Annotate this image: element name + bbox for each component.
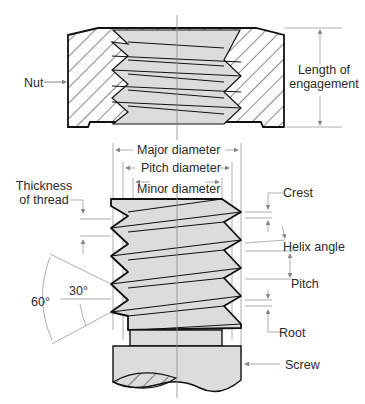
label-pitch-diameter: Pitch diameter [141,161,221,175]
screw-thread [111,185,241,398]
label-major-diameter: Major diameter [137,143,220,157]
label-pitch: Pitch [291,277,319,291]
label-screw: Screw [285,358,320,372]
label-helix-angle: Helix angle [283,240,345,254]
label-angle-30: 30° [69,284,88,298]
label-thickness-2: of thread [14,193,74,207]
label-root: Root [279,326,305,340]
label-thickness-1: Thickness [14,179,74,193]
label-nut: Nut [24,76,43,90]
label-minor-diameter: Minor diameter [137,182,220,196]
nut-section [68,15,284,140]
label-crest: Crest [283,186,313,200]
label-length-of-engagement-2: engagement [286,77,362,91]
label-angle-60: 60° [31,295,50,309]
label-length-of-engagement-1: Length of [286,63,362,77]
